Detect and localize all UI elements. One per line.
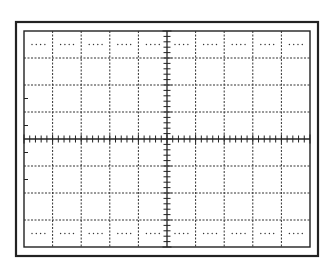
oscilloscope-graticule [0,0,334,266]
